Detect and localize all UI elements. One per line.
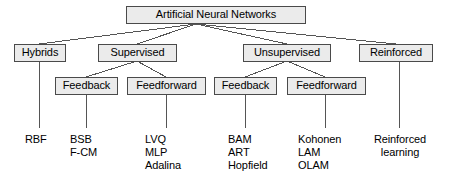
node-unsupervised: Unsupervised (243, 44, 331, 62)
leaf-line: LAM (298, 146, 341, 159)
leaf-unsupervised-feedback-models: BAM ART Hopfield (228, 133, 268, 172)
edge-unsupervised-feedforward (287, 61, 325, 77)
leaf-reinforced-models: Reinforced learning (355, 133, 445, 159)
node-supervised-feedback: Feedback (55, 77, 118, 95)
leaf-line: Adalina (145, 159, 181, 172)
leaf-line: Hopfield (228, 159, 268, 172)
leaf-supervised-feedback-models: BSB F-CM (70, 133, 97, 159)
node-supervised: Supervised (98, 44, 177, 62)
edge-root-reinforced (196, 24, 396, 44)
edge-root-hybrids (39, 24, 196, 44)
leaf-line: learning (355, 146, 445, 159)
edge-supervised-feedforward (137, 61, 166, 77)
edge-unsupervised-feedback (245, 61, 287, 77)
edge-root-supervised (137, 24, 196, 44)
leaf-line: OLAM (298, 159, 341, 172)
ann-taxonomy-diagram: Artificial Neural Networks Hybrids Super… (0, 0, 451, 183)
leaf-line: RBF (25, 133, 47, 146)
edge-supervised-feedback (86, 61, 137, 77)
leaf-line: BSB (70, 133, 97, 146)
leaf-unsupervised-feedforward-models: Kohonen LAM OLAM (298, 133, 341, 172)
node-unsupervised-feedforward: Feedforward (287, 77, 366, 95)
node-reinforced: Reinforced (359, 44, 433, 62)
leaf-line: Reinforced (355, 133, 445, 146)
node-artificial-neural-networks: Artificial Neural Networks (126, 6, 306, 24)
node-unsupervised-feedback: Feedback (214, 77, 277, 95)
leaf-line: MLP (145, 146, 181, 159)
leaf-supervised-feedforward-models: LVQ MLP Adalina (145, 133, 181, 172)
node-supervised-feedforward: Feedforward (127, 77, 206, 95)
leaf-line: Kohonen (298, 133, 341, 146)
leaf-line: F-CM (70, 146, 97, 159)
leaf-line: LVQ (145, 133, 181, 146)
node-hybrids: Hybrids (14, 44, 66, 62)
leaf-line: BAM (228, 133, 268, 146)
leaf-hybrids-models: RBF (25, 133, 47, 146)
leaf-line: ART (228, 146, 268, 159)
edge-root-unsupervised (196, 24, 287, 44)
